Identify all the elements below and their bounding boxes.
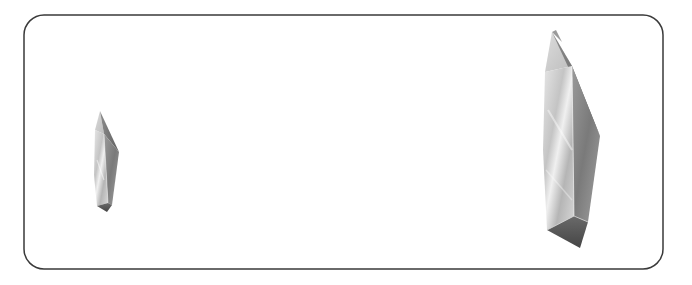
crystal-illustration [0, 0, 692, 285]
